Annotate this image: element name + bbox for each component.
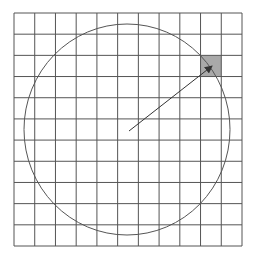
grid bbox=[14, 13, 242, 246]
radius-arrow bbox=[129, 66, 212, 131]
grid-circle-diagram bbox=[0, 0, 254, 258]
